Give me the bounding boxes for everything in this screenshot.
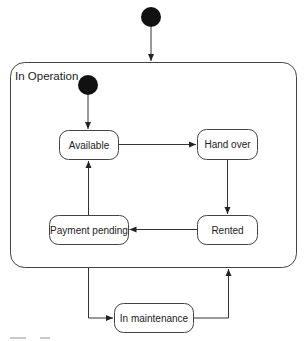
state-rented[interactable]: Rented <box>198 216 258 245</box>
caption-fragment <box>10 337 50 339</box>
state-in-maintenance[interactable]: In maintenance <box>115 304 194 333</box>
state-diagram: In Operation Available Hand over Rented … <box>0 0 304 341</box>
initial-node-outer <box>141 7 161 27</box>
transition-maintenance-to-operation <box>194 269 229 318</box>
composite-state-label: In Operation <box>15 70 78 82</box>
state-label: Hand over <box>204 139 251 150</box>
state-label: In maintenance <box>120 313 189 324</box>
state-label: Rented <box>211 225 243 236</box>
state-label: Available <box>69 140 110 151</box>
state-payment-pending[interactable]: Payment pending <box>50 216 129 245</box>
transition-operation-to-maintenance <box>89 268 114 318</box>
state-available[interactable]: Available <box>60 131 119 160</box>
state-hand-over[interactable]: Hand over <box>198 130 258 160</box>
initial-node-inner <box>78 75 98 95</box>
state-label: Payment pending <box>50 225 128 236</box>
